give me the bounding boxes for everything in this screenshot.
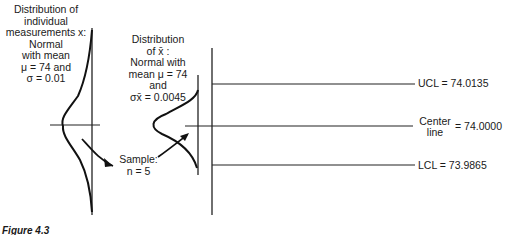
figure-caption: Figure 4.3 — [2, 225, 49, 235]
lcl-label: LCL = 73.9865 — [418, 160, 487, 171]
label-line: with mean — [5, 50, 87, 62]
individual-distribution-label: Distribution of individual measurements … — [5, 4, 87, 85]
label-line: Distribution of — [5, 4, 87, 16]
center-line-label: Center line — [415, 116, 455, 138]
label-line: measurements x: — [5, 27, 87, 39]
xbar-distribution-label: Distribution of x̄ : Normal with mean μ … — [118, 34, 198, 103]
label-line: Sample: — [116, 154, 161, 166]
label-line: σ = 0.01 — [5, 73, 87, 85]
sample-label: Sample: n = 5 — [116, 154, 161, 177]
ucl-label: UCL = 74.0135 — [418, 78, 489, 89]
label-line: n = 5 — [116, 166, 161, 178]
label-line: σx̄ = 0.0045 — [118, 92, 198, 104]
label-line: Distribution — [118, 34, 198, 46]
label-line: Normal with — [118, 57, 198, 69]
label-line: line — [415, 127, 455, 138]
center-line-value: = 74.0000 — [455, 121, 502, 132]
label-line: and — [118, 80, 198, 92]
arrowhead-icon — [104, 158, 113, 167]
